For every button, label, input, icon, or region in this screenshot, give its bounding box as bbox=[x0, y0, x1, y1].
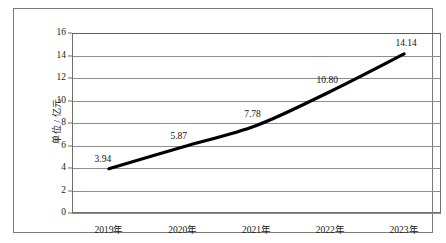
y-axis-tick-label: 16 bbox=[57, 28, 67, 38]
y-axis-tick-label: 0 bbox=[61, 208, 66, 218]
data-label: 7.78 bbox=[244, 109, 261, 119]
y-axis-tick-label: 4 bbox=[61, 163, 66, 173]
gridline bbox=[72, 213, 441, 214]
x-axis-tick-label: 2023年 bbox=[390, 222, 419, 236]
data-label: 5.87 bbox=[170, 131, 187, 141]
plot-area: 0246810121416 2019年2020年2021年2022年2023年 … bbox=[72, 33, 441, 213]
figure-outer-frame: 单位 / 亿元 0246810121416 2019年2020年2021年202… bbox=[13, 8, 433, 233]
data-label: 10.80 bbox=[317, 75, 338, 85]
x-axis-tick-label: 2022年 bbox=[316, 222, 345, 236]
y-axis-tick-label: 6 bbox=[61, 141, 66, 151]
x-axis-tick-label: 2019年 bbox=[94, 222, 123, 236]
y-axis-tick-label: 14 bbox=[57, 51, 67, 61]
y-axis-tick-label: 2 bbox=[61, 186, 66, 196]
x-axis-tick-label: 2021年 bbox=[242, 222, 271, 236]
line-series-svg bbox=[72, 33, 441, 213]
y-axis-tick-label: 12 bbox=[57, 73, 67, 83]
data-label: 3.94 bbox=[95, 154, 112, 164]
y-axis-tick-label: 8 bbox=[61, 118, 66, 128]
data-label: 14.14 bbox=[395, 38, 416, 48]
y-axis-tick-label: 10 bbox=[57, 96, 67, 106]
x-axis-tick-label: 2020年 bbox=[168, 222, 197, 236]
chart-figure: 单位 / 亿元 0246810121416 2019年2020年2021年202… bbox=[0, 0, 446, 243]
